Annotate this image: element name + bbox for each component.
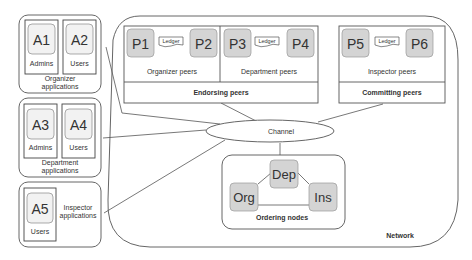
peer-p2: P2 <box>195 36 212 52</box>
inspector-applications-label-2: applications <box>60 212 97 220</box>
app-a4-role: Users <box>69 144 88 151</box>
link-inspector-channel <box>104 140 225 213</box>
link-organizer-channel <box>106 47 122 113</box>
app-a4-id: A4 <box>70 117 87 133</box>
organizer-peers-label: Organizer peers <box>147 68 198 76</box>
ledger-department: Ledger <box>258 38 275 44</box>
app-a3-role: Admins <box>29 144 53 151</box>
link-department-channel <box>103 130 206 138</box>
app-a2-role: Users <box>70 60 89 67</box>
ordering-nodes-label: Ordering nodes <box>256 214 308 222</box>
inspector-applications-label-1: Inspector <box>64 204 93 212</box>
app-a2-id: A2 <box>71 32 88 48</box>
link-organizer-channel-b <box>122 113 220 124</box>
link-committing-channel <box>318 104 383 122</box>
peer-p3: P3 <box>229 36 246 52</box>
peer-p6: P6 <box>411 36 428 52</box>
peer-p5: P5 <box>347 36 364 52</box>
app-a5-id: A5 <box>31 201 48 217</box>
endorsing-peers-label: Endorsing peers <box>193 89 248 97</box>
app-a1-id: A1 <box>33 32 50 48</box>
ordering-node-ins: Ins <box>314 190 332 205</box>
app-a5-role: Users <box>31 228 50 235</box>
link-endorsing-channel <box>221 103 258 122</box>
organizer-applications-label-1: Organizer <box>45 75 76 83</box>
department-applications-label-1: Department <box>42 159 79 167</box>
ledger-organizer: Ledger <box>162 38 179 44</box>
peer-p1: P1 <box>132 36 149 52</box>
channel-label: Channel <box>268 128 295 135</box>
app-a3-id: A3 <box>32 117 49 133</box>
inspector-peers-label: Inspector peers <box>368 68 417 76</box>
department-applications-label-2: applications <box>42 167 79 175</box>
committing-peers-label: Committing peers <box>362 89 422 97</box>
app-a1-role: Admins <box>30 60 54 67</box>
network-label: Network <box>386 232 414 239</box>
ordering-node-dep: Dep <box>272 167 296 182</box>
peer-p4: P4 <box>292 36 309 52</box>
organizer-applications-label-2: applications <box>42 83 79 91</box>
department-peers-label: Department peers <box>241 68 298 76</box>
architecture-diagram: A1 Admins A2 Users Organizer application… <box>0 0 472 260</box>
ledger-inspector: Ledger <box>378 38 395 44</box>
ordering-node-org: Org <box>233 190 255 205</box>
